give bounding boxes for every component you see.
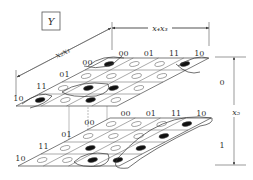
title-label: Y	[48, 16, 56, 27]
row-label: 11	[36, 82, 46, 91]
column-label: 10	[194, 49, 204, 58]
row-label: 01	[59, 70, 69, 79]
row-label: 10	[15, 154, 25, 163]
column-label: 01	[146, 109, 156, 118]
column-label: 00	[121, 109, 131, 118]
column-label: 01	[144, 49, 154, 58]
dimension-x5: x₅ 0 1	[215, 57, 246, 165]
dimension-x4x3: x₄x₃	[112, 22, 209, 50]
x5-value-1: 1	[219, 141, 224, 150]
column-label: 00	[119, 49, 129, 58]
row-label: 10	[13, 94, 23, 103]
row-label: 11	[38, 142, 48, 151]
column-label: 11	[171, 109, 181, 118]
title-box: Y	[42, 12, 60, 30]
planes-group	[16, 56, 212, 168]
dimension-label-x4x3: x₄x₃	[152, 24, 167, 33]
karnaugh-map-3d: Y x₄x₃ x₂x₁ x₅ 0 1 000111100001111000011…	[0, 0, 253, 180]
row-label: 01	[61, 130, 71, 139]
dimension-label-x5: x₅	[232, 108, 241, 117]
row-label: 00	[84, 118, 94, 127]
dimension-label-x2x1: x₂x₁	[54, 45, 72, 60]
x5-value-0: 0	[219, 78, 224, 87]
column-label: 10	[196, 109, 206, 118]
column-label: 11	[169, 49, 179, 58]
row-label: 00	[82, 58, 92, 67]
